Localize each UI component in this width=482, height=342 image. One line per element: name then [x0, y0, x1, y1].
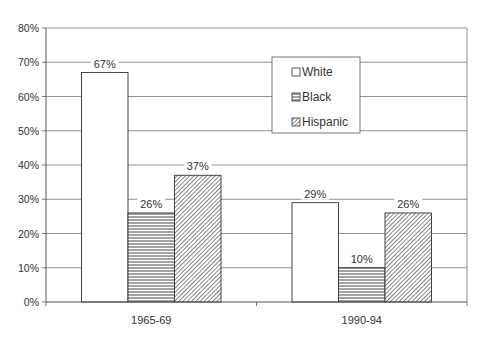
- x-category-label: 1990-94: [342, 314, 382, 326]
- bar-hispanic-1990-94: [385, 213, 432, 302]
- bar-black-1965-69: [128, 213, 175, 302]
- legend-label-black: Black: [302, 90, 332, 104]
- bar-white-1990-94: [292, 203, 339, 302]
- y-tick-label: 0%: [24, 296, 39, 308]
- data-label: 10%: [351, 253, 373, 265]
- data-label: 29%: [304, 188, 326, 200]
- bar-white-1965-69: [82, 73, 129, 302]
- legend-swatch-white: [292, 68, 300, 76]
- x-axis-category-labels: 1965-691990-94: [131, 314, 382, 326]
- data-label: 37%: [187, 160, 209, 172]
- legend-label-white: White: [302, 65, 333, 79]
- legend-label-hispanic: Hispanic: [302, 115, 348, 129]
- y-tick-label: 60%: [18, 91, 39, 103]
- y-tick-label: 80%: [18, 22, 39, 34]
- bars: 67%26%37%29%10%26%: [82, 57, 432, 302]
- bar-hispanic-1965-69: [175, 175, 222, 302]
- y-tick-label: 10%: [18, 262, 39, 274]
- legend-swatch-black: [292, 93, 300, 101]
- y-tick-label: 40%: [18, 159, 39, 171]
- y-tick-label: 50%: [18, 125, 39, 137]
- legend: WhiteBlackHispanic: [272, 57, 360, 133]
- legend-swatch-hispanic: [292, 118, 300, 126]
- y-axis-tick-labels: 0%10%20%30%40%50%60%70%80%: [18, 22, 39, 308]
- data-label: 26%: [140, 198, 162, 210]
- y-tick-label: 20%: [18, 228, 39, 240]
- x-category-label: 1965-69: [131, 314, 171, 326]
- y-tick-label: 70%: [18, 56, 39, 68]
- y-tick-label: 30%: [18, 193, 39, 205]
- bar-black-1990-94: [339, 268, 386, 302]
- bar-chart: 0%10%20%30%40%50%60%70%80% 67%26%37%29%1…: [0, 0, 482, 342]
- data-label: 67%: [94, 58, 116, 70]
- data-label: 26%: [397, 198, 419, 210]
